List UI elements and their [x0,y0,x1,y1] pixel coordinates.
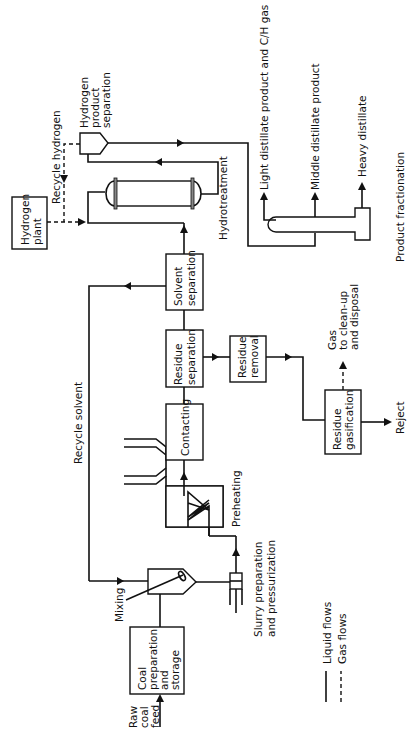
arrow-icon [177,139,184,147]
arrow-icon [285,353,292,361]
arrow-icon [260,192,268,200]
slurry-label: Slurry preparation and pressurization [252,538,277,637]
preheater-stack-line [124,447,166,455]
preheater-furnace [166,486,223,527]
residue-removal-label: Residue removal [236,333,260,378]
recycle-hydrogen-label: Recycle hydrogen [50,110,62,204]
product-fractionator [268,208,370,240]
mixer-vessel [148,569,196,594]
arrow-icon [384,418,392,426]
hydrogen-product-separation-label: Hydrogen product separation [78,72,112,128]
recycle-solvent-label: Recycle solvent [72,382,84,464]
reject-label: Reject [394,401,406,434]
arrow-icon [155,158,162,166]
arrow-icon [117,577,124,585]
gas-cleanup-label: Gas to clean-up and disposal [326,284,360,350]
recycle-solvent-line [89,286,166,581]
arrow-icon [232,548,240,556]
arrow-icon [180,472,188,480]
arrow-icon [339,361,347,369]
removal-to-gasification-line [266,357,325,420]
arrow-icon [124,282,131,290]
arrow-icon [358,182,366,190]
arrow-icon [212,353,219,361]
preheater-stack-outline [124,439,166,484]
process-flow-diagram: Coal preparation and storage Raw coal fe… [0,0,418,731]
product-fractionation-label: Product fractionation [394,152,406,262]
raw-coal-feed-label: Raw coal feed [127,703,161,728]
arrow-icon [156,694,164,702]
reactor-flange [191,178,194,209]
arrow-icon [78,218,86,226]
hydrotreater-reactor [115,181,192,206]
reactor-flange [114,178,117,209]
middle-distillate-label: Middle distillate product [309,63,321,190]
arrow-icon [180,225,188,233]
preheating-label: Preheating [230,470,242,527]
heavy-distillate-label: Heavy distillate [356,96,368,178]
arrow-icon [311,192,319,200]
legend-liquid-label: Liquid flows [321,602,333,664]
preheater-stack-line [124,468,166,476]
hydrogen-separator [80,133,108,154]
light-distillate-label: Light distillate product and C/H gas [258,5,270,190]
contacting-label: Contacting [179,399,191,456]
mixing-label: Mixing [113,588,125,622]
recycle-hydrogen-line [64,144,80,222]
legend-gas-label: Gas flows [336,614,348,664]
